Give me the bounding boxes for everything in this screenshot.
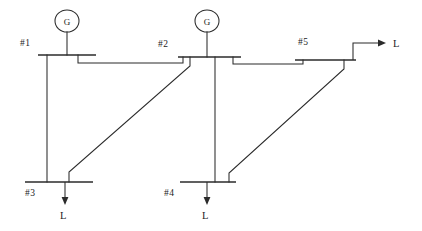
load-bus5-stem [353, 43, 380, 60]
arrow-right-icon [378, 40, 386, 47]
one-line-diagram-svg: G G L L L #1 #2 #3 #4 [0, 0, 422, 231]
load-bus5-label: L [393, 38, 399, 49]
arrow-down-icon [204, 197, 211, 205]
bus-label-1: #1 [20, 38, 31, 48]
load-bus4-label: L [202, 210, 208, 221]
line-bus3-bus2 [69, 57, 190, 182]
bus-label-4: #4 [164, 188, 175, 198]
generator-2-label: G [204, 17, 211, 27]
generator-1: G [55, 10, 79, 55]
one-line-diagram-canvas: G G L L L #1 #2 #3 #4 [0, 0, 422, 231]
load-bus3-label: L [60, 210, 66, 221]
line-bus1-bus2 [78, 55, 183, 63]
load-bus3: L [60, 182, 68, 221]
generator-2: G [195, 10, 219, 57]
bus-label-2: #2 [158, 39, 169, 49]
load-bus5: L [353, 38, 399, 60]
arrow-down-icon [62, 197, 69, 205]
bus-label-5: #5 [298, 37, 309, 47]
generator-1-label: G [64, 17, 71, 27]
line-bus4-bus5 [229, 60, 344, 182]
load-bus4: L [202, 182, 210, 221]
bus-label-3: #3 [25, 188, 36, 198]
line-bus2-bus5 [233, 57, 303, 64]
